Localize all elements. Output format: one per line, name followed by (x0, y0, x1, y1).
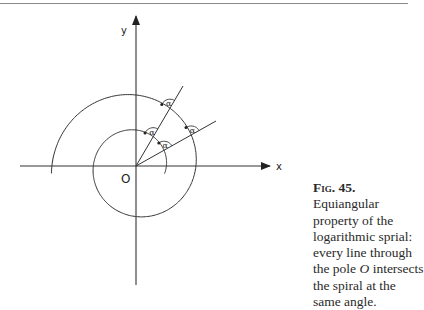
pole-symbol: O (360, 261, 370, 276)
angle-alpha-label: α (163, 141, 169, 150)
angle-arrow-icon (144, 132, 147, 135)
angle-arrow-icon (160, 103, 163, 106)
angle-alpha-label: α (190, 126, 196, 135)
angle-alpha-label: α (149, 128, 155, 137)
x-axis-label: x (276, 161, 282, 172)
logarithmic-spiral (51, 95, 196, 217)
angle-alpha-label: α (166, 99, 172, 108)
origin-label: O (121, 172, 130, 186)
caption-title: Fig. 45. (313, 180, 424, 196)
figure-caption: Fig. 45. Equiangular property of the log… (313, 180, 424, 310)
y-axis-label: y (121, 25, 127, 36)
ray-1 (136, 86, 183, 166)
ray-2 (136, 121, 216, 166)
rays-through-pole (136, 86, 216, 166)
angle-arrow-icon (185, 126, 188, 129)
angle-arrow-icon (157, 141, 160, 144)
angle-markers: αααα (144, 99, 200, 150)
caption-body: Equiangular property of the logarithmic … (313, 196, 424, 310)
